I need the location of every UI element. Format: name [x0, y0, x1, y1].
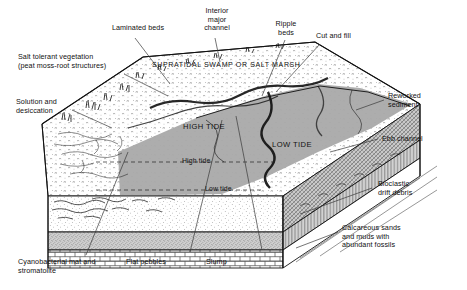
annotation-cut-and-fill: Cut and fill — [316, 32, 378, 41]
annotation-laminated-beds: Laminated beds — [98, 24, 178, 33]
high-tide-datum-label: High tide — [182, 157, 210, 164]
block-diagram-figure: SUPRATIDAL SWAMP OR SALT MARSH HIGH TIDE… — [0, 0, 467, 290]
annotation-flat-pebbles: Flat pebbles — [126, 258, 192, 267]
low-tide-caps-label: LOW TIDE — [272, 140, 312, 149]
annotation-reworked-sediment: Reworked sediment — [388, 92, 460, 109]
annotation-interior-major-channel: Interior major channel — [190, 7, 244, 33]
annotation-ebb-channel: Ebb channel — [382, 135, 454, 144]
annotation-cyanobacterial-mat: Cyanobacterial mat and stromatolite — [18, 258, 118, 275]
supratidal-swamp-label: SUPRATIDAL SWAMP OR SALT MARSH — [152, 60, 262, 70]
annotation-solution-and-desiccation: Solution and desiccation — [16, 98, 86, 115]
annotation-salt-tolerant-vegetation: Salt tolerant vegetation (peat moss-root… — [18, 53, 130, 70]
annotation-ripple-beds: Ripple beds — [266, 20, 306, 37]
annotation-calcareous-sands: Calcareous sands and muds with abundant … — [342, 224, 438, 250]
annotation-bioclastic-drift-debris: Bioclastic drift debris — [378, 180, 450, 197]
low-tide-datum-label: Low tide — [205, 185, 232, 192]
high-tide-caps-label: HIGH TIDE — [183, 122, 225, 131]
annotation-slump: Slump — [206, 258, 252, 267]
